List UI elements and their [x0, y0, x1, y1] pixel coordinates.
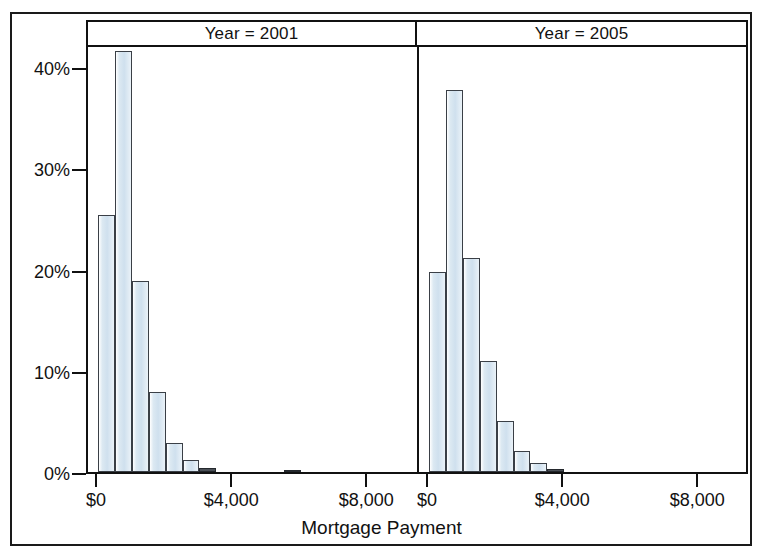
histogram-bar [429, 272, 446, 472]
panel-year-2005: Year = 2005 [417, 20, 748, 474]
plot-area-year-2005 [417, 47, 748, 474]
bar-series-year-2001 [88, 45, 417, 472]
panel-header-year-2005: Year = 2005 [417, 20, 748, 47]
panel-header-year-2001: Year = 2001 [86, 20, 417, 47]
histogram-bar [98, 215, 115, 472]
histogram-bar [497, 421, 514, 472]
histogram-bar [166, 443, 183, 472]
histogram-bar [463, 258, 480, 473]
plot-area-year-2001 [86, 47, 417, 474]
panel-year-2001: Year = 2001 [86, 20, 417, 474]
histogram-bar [547, 469, 564, 472]
histogram-bar [132, 281, 149, 472]
histogram-bar [446, 90, 463, 472]
histogram-bar [183, 460, 200, 472]
histogram-bar [149, 392, 166, 472]
histogram-bar [115, 51, 132, 472]
histogram-bar [199, 468, 216, 472]
histogram-bar [480, 361, 497, 472]
histogram-bar [284, 470, 301, 473]
x-axis-title: Mortgage Payment [0, 517, 763, 539]
bar-series-year-2005 [419, 45, 746, 472]
histogram-bar [530, 463, 547, 472]
facet-panel-container: Year = 2001 Year = 2005 [86, 20, 748, 474]
histogram-bar [514, 451, 531, 472]
